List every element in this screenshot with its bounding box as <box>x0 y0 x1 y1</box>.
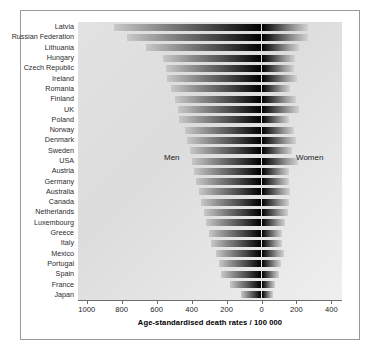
bar-women <box>262 116 290 123</box>
bar-men <box>209 230 261 237</box>
category-label: Australia <box>46 187 74 197</box>
bar-women <box>262 85 291 92</box>
axis-tick <box>192 300 193 304</box>
bar-men <box>211 240 262 247</box>
bar-women <box>262 219 286 226</box>
category-label: Romania <box>45 84 74 94</box>
bar-men <box>201 199 261 206</box>
bar-men <box>241 291 261 298</box>
bar-men <box>175 96 262 103</box>
category-label: Netherlands <box>35 207 74 217</box>
bar-men <box>167 75 261 82</box>
bar-men <box>219 260 262 267</box>
bar-women <box>262 260 281 267</box>
category-label: Spain <box>56 269 74 279</box>
bar-men <box>206 219 261 226</box>
category-label: Lithuania <box>45 43 74 53</box>
category-label: Latvia <box>55 22 74 32</box>
bar-women <box>262 199 290 206</box>
bar-men <box>171 85 262 92</box>
axis-tick <box>157 300 158 304</box>
bar-women <box>262 55 295 62</box>
category-label: Italy <box>61 238 74 248</box>
bar-men <box>216 250 261 257</box>
value-axis-line <box>78 300 342 301</box>
bar-women <box>262 271 279 278</box>
category-label: Austria <box>52 166 74 176</box>
axis-tick <box>296 300 297 304</box>
category-label: UK <box>64 105 74 115</box>
category-label: Sweden <box>48 146 74 156</box>
series-label-women: Women <box>296 153 323 162</box>
bar-women <box>262 230 283 237</box>
bar-women <box>262 281 276 288</box>
category-label: Mexico <box>51 249 74 259</box>
axis-tick <box>87 300 88 304</box>
bar-men <box>187 137 261 144</box>
bar-women <box>262 240 283 247</box>
bar-women <box>262 65 294 72</box>
bar-women <box>262 34 308 41</box>
bar-men <box>146 44 261 51</box>
category-label: France <box>52 280 74 290</box>
category-label: Japan <box>54 290 74 300</box>
bar-women <box>262 127 294 134</box>
bar-men <box>185 127 262 134</box>
category-axis-labels: LatviaRussian FederationLithuaniaHungary… <box>0 22 76 300</box>
axis-tick-label: 400 <box>311 305 351 314</box>
bar-women <box>262 44 300 51</box>
bar-women <box>262 209 288 216</box>
bar-men <box>178 106 262 113</box>
category-label: Finland <box>50 94 74 104</box>
series-label-men: Men <box>164 153 180 162</box>
category-label: Ireland <box>52 74 74 84</box>
axis-tick <box>262 300 263 304</box>
category-label: Canada <box>49 197 74 207</box>
chart-figure: LatviaRussian FederationLithuaniaHungary… <box>0 0 369 360</box>
bar-men <box>127 34 262 41</box>
bar-women <box>262 106 300 113</box>
bar-women <box>262 291 273 298</box>
axis-tick <box>331 300 332 304</box>
bar-women <box>262 250 285 257</box>
bar-women <box>262 75 298 82</box>
bar-men <box>221 271 261 278</box>
category-label: Greece <box>50 228 74 238</box>
category-label: Germany <box>44 177 74 187</box>
bar-men <box>194 168 261 175</box>
x-axis-title: Age-standardised death rates / 100 000 <box>78 318 342 327</box>
bar-men <box>114 24 262 31</box>
bar-men <box>163 55 262 62</box>
category-label: Portugal <box>47 259 74 269</box>
bar-men <box>190 147 262 154</box>
category-label: Hungary <box>47 53 74 63</box>
bar-men <box>199 188 262 195</box>
category-label: Norway <box>50 125 74 135</box>
bar-women <box>262 168 290 175</box>
bar-women <box>262 158 299 165</box>
bar-women <box>262 24 308 31</box>
axis-tick <box>122 300 123 304</box>
category-label: Russian Federation <box>12 32 74 42</box>
bar-men <box>196 178 262 185</box>
bar-men <box>230 281 261 288</box>
bar-women <box>262 96 296 103</box>
bar-men <box>204 209 262 216</box>
axis-tick <box>227 300 228 304</box>
bar-women <box>262 137 296 144</box>
category-label: Luxembourg <box>34 218 74 228</box>
category-label: Denmark <box>45 135 74 145</box>
bar-men <box>166 65 261 72</box>
bar-women <box>262 178 289 185</box>
category-label: Poland <box>52 115 74 125</box>
bar-men <box>179 116 261 123</box>
category-label: Czech Republic <box>24 63 74 73</box>
bar-women <box>262 188 291 195</box>
bar-men <box>192 158 262 165</box>
bar-women <box>262 147 293 154</box>
category-label: USA <box>59 156 74 166</box>
